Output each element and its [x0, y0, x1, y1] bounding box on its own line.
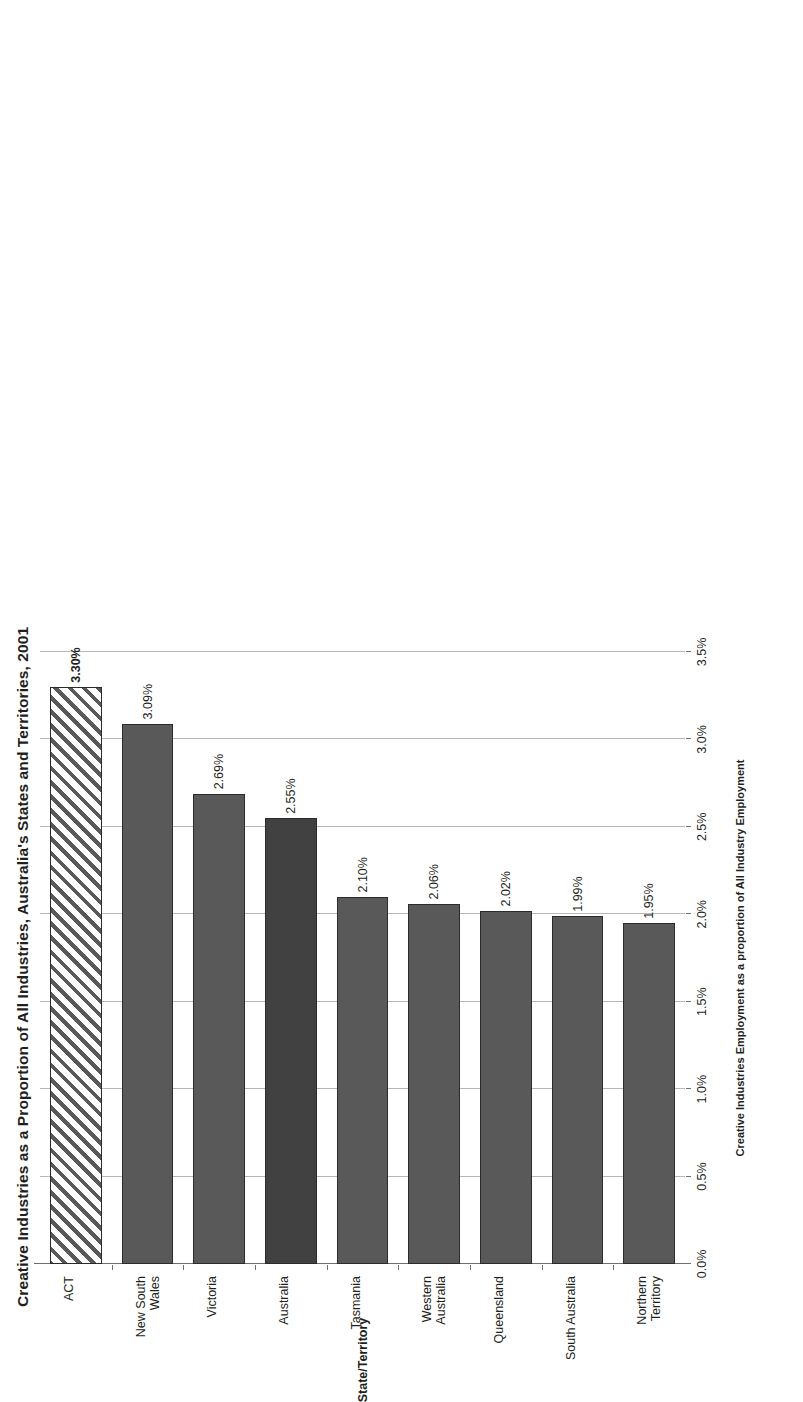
category-tick-mark: [613, 1265, 614, 1270]
category-label: Northern Territory: [635, 1276, 663, 1325]
bar-northern-territory[interactable]: [623, 923, 675, 1264]
bar-value-label: 2.10%: [356, 857, 370, 892]
value-tick-mark: [686, 826, 691, 827]
bar-value-label: 2.06%: [427, 864, 441, 899]
value-axis-title: Creative Industries Employment as a prop…: [733, 723, 747, 1193]
value-axis-tick-label: 3.5%: [695, 638, 709, 667]
bar-value-label: 3.09%: [141, 684, 155, 719]
bar-value-label: 3.30%: [69, 647, 83, 682]
value-tick-mark: [686, 1176, 691, 1177]
value-tick-mark: [686, 1001, 691, 1002]
chart-title: Creative Industries as a Proportion of A…: [14, 627, 32, 1307]
value-axis-tick-label: 3.0%: [695, 725, 709, 754]
bar-act[interactable]: [50, 687, 102, 1264]
category-label: Queensland: [492, 1276, 506, 1343]
category-tick-mark: [470, 1265, 471, 1270]
value-axis-tick-label: 1.0%: [695, 1075, 709, 1104]
value-tick-mark: [686, 913, 691, 914]
bar-value-label: 2.55%: [284, 778, 298, 813]
bar-value-label: 2.69%: [212, 754, 226, 789]
category-tick-mark: [398, 1265, 399, 1270]
value-axis-tick-label: 2.0%: [695, 900, 709, 929]
value-tick-mark: [686, 1088, 691, 1089]
value-axis-tick-label: 1.5%: [695, 987, 709, 1016]
bar-queensland[interactable]: [480, 911, 532, 1264]
category-tick-mark: [183, 1265, 184, 1270]
bar-australia[interactable]: [265, 818, 317, 1264]
bar-value-label: 1.99%: [571, 876, 585, 911]
category-label: New South Wales: [134, 1276, 162, 1337]
value-axis-tick-label: 0.0%: [695, 1250, 709, 1279]
bar-tasmania[interactable]: [337, 897, 389, 1264]
bar-value-label: 1.95%: [642, 883, 656, 918]
bar-new-south-wales[interactable]: [122, 724, 174, 1264]
value-gridline: [40, 651, 685, 652]
value-axis-tick-label: 0.5%: [695, 1162, 709, 1191]
category-label: Australia: [277, 1276, 291, 1325]
bar-south-australia[interactable]: [552, 916, 604, 1264]
category-label: South Australia: [564, 1276, 578, 1360]
bar-victoria[interactable]: [193, 794, 245, 1264]
category-axis-title: State/Territory: [356, 1318, 370, 1402]
category-label: ACT: [62, 1276, 76, 1301]
value-tick-mark: [686, 651, 691, 652]
category-tick-mark: [542, 1265, 543, 1270]
value-tick-mark: [686, 738, 691, 739]
category-tick-mark: [255, 1265, 256, 1270]
category-label: Victoria: [205, 1276, 219, 1317]
bar-western-australia[interactable]: [408, 904, 460, 1264]
category-tick-mark: [112, 1265, 113, 1270]
category-label: Western Australia: [420, 1276, 448, 1325]
value-axis-tick-label: 2.5%: [695, 813, 709, 842]
bar-value-label: 2.02%: [499, 871, 513, 906]
plot-area: 0.0%0.5%1.0%1.5%2.0%2.5%3.0%3.5%3.30%ACT…: [40, 652, 685, 1264]
category-tick-mark: [327, 1265, 328, 1270]
